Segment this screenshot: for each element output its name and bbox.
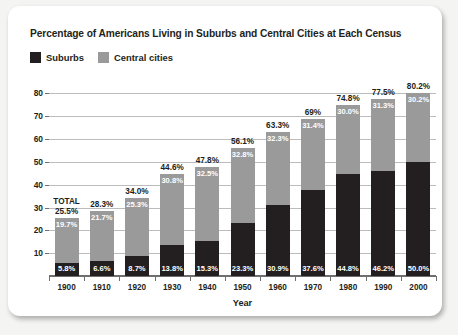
bar-segment-central-cities[interactable]: 21.7% <box>90 211 114 261</box>
stacked-bar[interactable]: 44.6%30.8%13.8% <box>160 174 184 276</box>
chart-legend: Suburbs Central cities <box>30 52 173 63</box>
x-axis: 1900191019201930194019501960197019801990… <box>49 276 436 298</box>
x-axis-labels: 1900191019201930194019501960197019801990… <box>49 283 436 292</box>
stacked-bar[interactable]: 80.2%30.2%50.0% <box>406 93 430 276</box>
y-axis-tick-label: 80 <box>34 88 43 98</box>
bar-total-label: 63.3% <box>266 121 289 130</box>
bar-total-label: 77.5% <box>372 88 395 97</box>
stacked-bar[interactable]: 69%31.4%37.6% <box>301 119 325 276</box>
bar-total-label: 56.1% <box>231 137 254 146</box>
x-axis-tick-label: 1920 <box>119 283 154 292</box>
bar-segment-central-cities[interactable]: 30.2% <box>406 93 430 162</box>
bar-segment-central-cities[interactable]: 30.8% <box>160 174 184 244</box>
bar-segment-label: 30.9% <box>266 264 290 273</box>
x-axis-tick-label: 1940 <box>190 283 225 292</box>
bar-slot[interactable]: 74.8%30.0%44.8% <box>331 82 366 276</box>
bar-segment-suburbs[interactable]: 23.3% <box>231 223 255 276</box>
bar-total-label: 69% <box>305 108 321 117</box>
bar-segment-label: 46.2% <box>371 264 395 273</box>
bar-segment-suburbs[interactable]: 15.3% <box>195 241 219 276</box>
bar-segment-central-cities[interactable]: 19.7% <box>55 218 79 263</box>
bar-segment-suburbs[interactable]: 13.8% <box>160 245 184 276</box>
bar-segment-central-cities[interactable]: 25.3% <box>125 198 149 256</box>
bar-total-label: 28.3% <box>90 200 113 209</box>
bar-group: 25.5%TOTAL19.7%5.8%28.3%21.7%6.6%34.0%25… <box>49 82 436 276</box>
bar-segment-central-cities[interactable]: 31.4% <box>301 119 325 191</box>
x-axis-tick-label: 1990 <box>366 283 401 292</box>
page-title: Percentage of Americans Living in Suburb… <box>30 28 401 39</box>
bar-slot[interactable]: 63.3%32.3%30.9% <box>260 82 295 276</box>
bar-segment-suburbs[interactable]: 50.0% <box>406 162 430 276</box>
x-tick-mark <box>84 276 85 281</box>
legend-swatch-central-cities <box>98 52 109 63</box>
bar-slot[interactable]: 56.1%32.8%23.3% <box>225 82 260 276</box>
screenshot-root: Percentage of Americans Living in Suburb… <box>0 0 458 335</box>
x-tick-mark <box>119 276 120 281</box>
bar-segment-label: 32.5% <box>195 169 219 178</box>
bar-segment-central-cities[interactable]: 32.5% <box>195 167 219 241</box>
bar-slot[interactable]: 44.6%30.8%13.8% <box>155 82 190 276</box>
bar-segment-label: 5.8% <box>55 264 79 273</box>
stacked-bar[interactable]: 28.3%21.7%6.6% <box>90 211 114 276</box>
bar-segment-suburbs[interactable]: 30.9% <box>266 205 290 276</box>
y-axis-tick-label: 20 <box>34 225 43 235</box>
stacked-bar[interactable]: 47.8%32.5%15.3% <box>195 167 219 276</box>
x-tick-mark <box>49 276 50 281</box>
legend-swatch-suburbs <box>30 52 41 63</box>
bar-slot[interactable]: 25.5%TOTAL19.7%5.8% <box>49 82 84 276</box>
x-axis-tick-label: 1950 <box>225 283 260 292</box>
bar-segment-central-cities[interactable]: 30.0% <box>336 105 360 173</box>
bar-slot[interactable]: 34.0%25.3%8.7% <box>119 82 154 276</box>
x-axis-tick-label: 2000 <box>401 283 436 292</box>
bar-segment-suburbs[interactable]: 44.8% <box>336 174 360 276</box>
y-axis-tick-label: 60 <box>34 134 43 144</box>
x-axis-tick-label: 1930 <box>155 283 190 292</box>
bar-segment-label: 8.7% <box>125 264 149 273</box>
legend-item-suburbs: Suburbs <box>30 52 84 63</box>
x-tick-mark <box>295 276 296 281</box>
bar-segment-label: 37.6% <box>301 264 325 273</box>
stacked-bar[interactable]: 77.5%31.3%46.2% <box>371 99 395 276</box>
x-tick-mark <box>190 276 191 281</box>
bar-segment-central-cities[interactable]: 31.3% <box>371 99 395 170</box>
chart-card: Percentage of Americans Living in Suburb… <box>8 6 442 316</box>
stacked-bar[interactable]: 63.3%32.3%30.9% <box>266 132 290 276</box>
x-axis-line <box>49 276 436 277</box>
bar-segment-label: 50.0% <box>406 264 430 273</box>
bar-segment-suburbs[interactable]: 37.6% <box>301 190 325 276</box>
stacked-bar[interactable]: 34.0%25.3%8.7% <box>125 198 149 276</box>
bar-segment-label: 30.8% <box>160 176 184 185</box>
bar-segment-label: 32.8% <box>231 150 255 159</box>
bar-segment-label: 6.6% <box>90 264 114 273</box>
stacked-bar[interactable]: 56.1%32.8%23.3% <box>231 148 255 276</box>
bar-segment-label: 30.0% <box>336 107 360 116</box>
bar-total-label: 74.8% <box>336 94 359 103</box>
bar-total-label: 80.2% <box>407 82 430 91</box>
plot-area: 1020304050607080 25.5%TOTAL19.7%5.8%28.3… <box>49 82 436 276</box>
bar-slot[interactable]: 28.3%21.7%6.6% <box>84 82 119 276</box>
bar-segment-suburbs[interactable]: 46.2% <box>371 171 395 276</box>
bar-segment-suburbs[interactable]: 6.6% <box>90 261 114 276</box>
bar-slot[interactable]: 77.5%31.3%46.2% <box>366 82 401 276</box>
x-axis-tick-label: 1970 <box>295 283 330 292</box>
bar-segment-label: 19.7% <box>55 220 79 229</box>
bar-segment-suburbs[interactable]: 5.8% <box>55 263 79 276</box>
bar-slot[interactable]: 69%31.4%37.6% <box>295 82 330 276</box>
y-axis-tick-label: 10 <box>34 248 43 258</box>
y-axis-tick-label: 30 <box>34 203 43 213</box>
bar-segment-suburbs[interactable]: 8.7% <box>125 256 149 276</box>
x-tick-mark <box>225 276 226 281</box>
x-tick-mark <box>366 276 367 281</box>
legend-item-central-cities: Central cities <box>98 52 173 63</box>
bar-segment-central-cities[interactable]: 32.3% <box>266 132 290 206</box>
bar-segment-label: 30.2% <box>406 95 430 104</box>
bar-segment-central-cities[interactable]: 32.8% <box>231 148 255 223</box>
x-tick-mark <box>436 276 437 281</box>
x-axis-tick-label: 1980 <box>331 283 366 292</box>
x-axis-title: Year <box>49 298 436 308</box>
x-tick-mark <box>260 276 261 281</box>
bar-slot[interactable]: 80.2%30.2%50.0% <box>401 82 436 276</box>
stacked-bar[interactable]: 74.8%30.0%44.8% <box>336 105 360 276</box>
bar-slot[interactable]: 47.8%32.5%15.3% <box>190 82 225 276</box>
stacked-bar[interactable]: 25.5%TOTAL19.7%5.8% <box>55 218 79 276</box>
